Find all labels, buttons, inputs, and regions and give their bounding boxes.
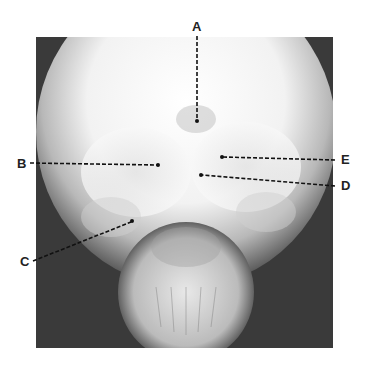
label-c: C (20, 255, 29, 268)
leader-line-b (30, 163, 157, 165)
target-dot-c (130, 219, 134, 223)
label-d: D (341, 179, 350, 192)
target-dot-b (156, 163, 160, 167)
leader-line-d (202, 175, 335, 186)
leader-line-e (223, 157, 335, 160)
target-dot-a (195, 119, 199, 123)
target-dot-e (220, 155, 224, 159)
leader-line-c (33, 222, 131, 261)
label-b: B (17, 157, 26, 170)
label-leader-lines (0, 0, 368, 368)
label-a: A (192, 20, 201, 33)
target-dot-d (199, 173, 203, 177)
label-e: E (341, 153, 350, 166)
